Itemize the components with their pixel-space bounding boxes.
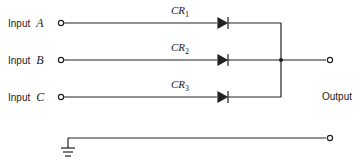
input-b-label: InputB: [8, 53, 44, 68]
input-c-terminal: [58, 94, 63, 99]
input-c-label: InputC: [8, 90, 44, 105]
cr2-label: CR2: [171, 41, 189, 56]
input-a-terminal: [58, 20, 63, 25]
input-c-text: Input: [8, 92, 30, 103]
diode-cr2-icon: [218, 55, 227, 65]
diode-or-circuit: InputA InputB InputC CR1 CR2 CR3 Output: [0, 0, 360, 165]
input-c-letter: C: [36, 90, 44, 104]
input-b-terminal: [58, 57, 63, 62]
input-b-letter: B: [36, 53, 43, 67]
ground-output-terminal: [327, 135, 332, 140]
junction-dot: [279, 58, 283, 62]
input-b-text: Input: [8, 55, 30, 66]
output-label: Output: [322, 91, 352, 102]
diode-cr1-icon: [218, 18, 227, 28]
cr1-label: CR1: [171, 4, 189, 19]
cr3-label: CR3: [171, 78, 189, 93]
input-a-text: Input: [8, 18, 30, 29]
input-a-letter: A: [36, 16, 43, 30]
output-terminal: [327, 57, 332, 62]
diode-cr3-icon: [218, 92, 227, 102]
input-a-label: InputA: [8, 16, 44, 31]
